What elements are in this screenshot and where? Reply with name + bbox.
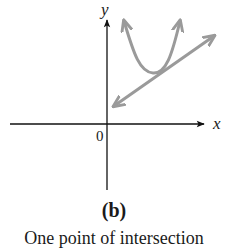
figure-caption-text: One point of intersection bbox=[0, 228, 228, 249]
x-axis-label: x bbox=[212, 114, 221, 133]
figure-caption-label: (b) bbox=[0, 199, 228, 222]
tangent-line bbox=[114, 36, 214, 106]
origin-label: 0 bbox=[96, 128, 104, 144]
y-axis-label: y bbox=[99, 0, 109, 19]
